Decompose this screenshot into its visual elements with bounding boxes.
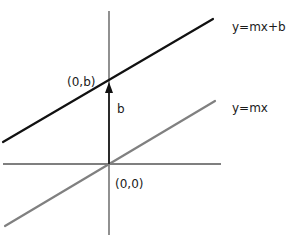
label-b: b — [117, 102, 125, 116]
label-y-mx: y=mx — [232, 101, 268, 115]
label-y-mx-plus-b: y=mx+b — [232, 20, 286, 34]
arrowhead-icon — [105, 82, 113, 93]
line-y-mx-plus-b — [3, 19, 213, 142]
label-origin: (0,0) — [115, 177, 143, 191]
diagram-svg: y=mx+b y=mx b (0,b) (0,0) — [0, 0, 293, 250]
diagram-canvas: y=mx+b y=mx b (0,b) (0,0) — [0, 0, 293, 250]
label-point-0-b: (0,b) — [67, 75, 95, 89]
